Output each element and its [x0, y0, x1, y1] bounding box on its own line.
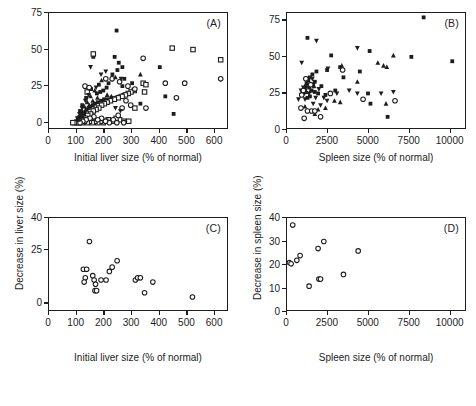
y-tick-label: 75 [12, 7, 42, 18]
data-point-filled-square [386, 115, 390, 119]
data-point-open-circle [308, 82, 313, 87]
data-point-triangle-down [347, 89, 352, 94]
data-point-open-square [144, 82, 148, 86]
data-point-open-circle [84, 267, 89, 272]
x-tickmark [368, 311, 369, 315]
panel-b-plot-frame: (B) [286, 12, 466, 129]
data-point-open-square [170, 46, 174, 50]
x-tick-label: 2500 [316, 135, 338, 146]
y-tick-label: 0 [250, 306, 280, 317]
data-point-triangle-down [318, 103, 323, 108]
data-point-filled-square [98, 90, 102, 94]
data-point-open-circle [340, 68, 345, 73]
x-tickmark [159, 129, 160, 133]
panel-a-plot-frame: (A) [48, 12, 228, 129]
x-tick-label: 100 [67, 317, 84, 328]
data-point-filled-square [115, 29, 119, 33]
x-tick-label: 300 [123, 317, 140, 328]
data-point-open-circle [174, 96, 179, 101]
y-tick-label: 0 [12, 297, 42, 308]
data-point-open-circle [104, 278, 109, 283]
y-tick-label: 0 [250, 124, 280, 135]
x-tickmark [409, 311, 410, 315]
data-point-open-square [133, 106, 137, 110]
y-tickmark [44, 12, 48, 13]
data-point-open-square [91, 52, 95, 56]
data-point-open-circle [138, 276, 143, 281]
data-point-filled-square [315, 70, 319, 74]
data-point-open-circle [322, 239, 327, 244]
data-point-filled-square [313, 90, 317, 94]
y-tickmark [282, 241, 286, 242]
panel-a-x-axis-title: Initial liver size (% of normal) [74, 152, 202, 163]
x-tick-label: 100 [67, 135, 84, 146]
data-point-filled-square [342, 75, 346, 79]
data-point-open-circle [182, 81, 187, 86]
data-point-filled-square [120, 84, 124, 88]
data-point-triangle-down [313, 96, 318, 101]
data-point-open-circle [144, 106, 149, 111]
x-tick-label: 0 [283, 135, 289, 146]
x-tick-label: 10000 [436, 317, 464, 328]
data-point-open-circle [299, 106, 304, 111]
x-tickmark [409, 129, 410, 133]
data-point-open-circle [190, 295, 195, 300]
data-point-triangle-up [95, 95, 100, 100]
data-point-filled-square [450, 59, 454, 63]
y-tick-label: 0 [12, 116, 42, 127]
x-tickmark [214, 129, 215, 133]
x-tickmark [286, 129, 287, 133]
data-point-filled-square [313, 80, 317, 84]
data-point-open-circle [305, 109, 310, 114]
data-point-triangle-down [99, 72, 104, 77]
x-tick-label: 400 [150, 135, 167, 146]
data-point-filled-square [358, 70, 362, 74]
data-point-open-square [218, 58, 222, 62]
panel-b: (B) 0250050007500100000255075 Spleen siz… [238, 0, 476, 200]
data-point-triangle-up [105, 92, 110, 97]
y-tickmark [282, 311, 286, 312]
panel-d-label: (D) [444, 222, 459, 234]
data-point-open-circle [110, 265, 115, 270]
data-point-open-circle [87, 85, 92, 90]
y-tick-label: 75 [250, 14, 280, 25]
data-point-triangle-up [391, 53, 396, 58]
x-tickmark [368, 129, 369, 133]
x-tick-label: 400 [150, 317, 167, 328]
x-tickmark [186, 129, 187, 133]
panel-d-plot-frame: (D) [286, 217, 466, 311]
panel-c-x-axis-title: Initial liver size (% of normal) [74, 352, 202, 363]
data-point-filled-square [138, 102, 142, 106]
x-tickmark [214, 311, 215, 315]
data-point-open-circle [99, 278, 104, 283]
data-point-open-circle [151, 280, 156, 285]
x-tick-label: 5000 [357, 317, 379, 328]
x-tickmark [450, 129, 451, 133]
x-tickmark [76, 311, 77, 315]
data-point-triangle-down [317, 87, 322, 92]
data-point-open-circle [133, 87, 138, 92]
data-point-open-circle [121, 120, 126, 125]
data-point-open-circle [290, 223, 295, 228]
x-tickmark [131, 129, 132, 133]
panel-c-data-marks [49, 218, 229, 312]
data-point-triangle-up [384, 101, 389, 106]
data-point-triangle-up [375, 60, 380, 65]
data-point-triangle-down [355, 46, 360, 51]
data-point-triangle-down [103, 70, 108, 75]
y-tickmark [44, 49, 48, 50]
data-point-filled-square [111, 73, 115, 77]
x-tickmark [76, 129, 77, 133]
data-point-triangle-down [296, 97, 301, 102]
x-tickmark [186, 311, 187, 315]
y-tick-label: 50 [12, 43, 42, 54]
x-tick-label: 0 [45, 135, 51, 146]
data-point-open-circle [304, 77, 309, 82]
data-point-open-square [71, 120, 75, 124]
y-tick-label: 50 [250, 50, 280, 61]
data-point-triangle-up [355, 79, 360, 84]
y-tickmark [282, 129, 286, 130]
data-point-open-circle [103, 77, 108, 82]
data-point-filled-square [422, 15, 426, 19]
data-point-filled-square [120, 65, 124, 69]
